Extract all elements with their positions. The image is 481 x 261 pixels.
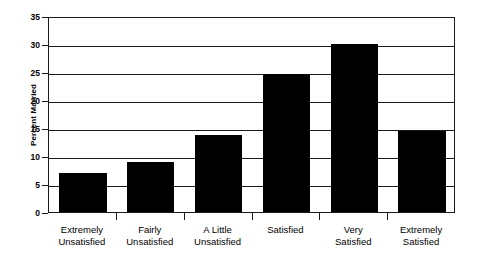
x-axis-label: Extremely Unsatisfied bbox=[48, 224, 116, 248]
bar-chart: Percent Married 05101520253035 Extremely… bbox=[0, 0, 481, 261]
gridline bbox=[49, 130, 454, 131]
bar bbox=[398, 131, 445, 212]
x-axis-label: A Little Unsatisfied bbox=[184, 224, 252, 248]
x-axis-label: Very Satisfied bbox=[319, 224, 387, 248]
gridline bbox=[49, 46, 454, 47]
x-axis-label: Satisfied bbox=[252, 224, 320, 236]
x-tick-mark bbox=[387, 213, 388, 220]
bar bbox=[263, 74, 310, 212]
x-tick-mark bbox=[184, 213, 185, 220]
plot-area bbox=[48, 17, 455, 213]
gridline bbox=[49, 74, 454, 75]
y-tick-label: 5 bbox=[0, 181, 40, 189]
y-tick-label: 20 bbox=[0, 97, 40, 105]
x-tick-mark bbox=[116, 213, 117, 220]
y-tick-label: 30 bbox=[0, 41, 40, 49]
y-tick-label: 10 bbox=[0, 153, 40, 161]
bar bbox=[127, 162, 174, 212]
y-tick-label: 0 bbox=[0, 209, 40, 217]
gridline bbox=[49, 102, 454, 103]
x-tick-mark bbox=[252, 213, 253, 220]
x-axis-label: Fairly Unsatisfied bbox=[116, 224, 184, 248]
y-tick-label: 35 bbox=[0, 13, 40, 21]
x-axis-label: Extremely Satisfied bbox=[387, 224, 455, 248]
bar bbox=[59, 173, 106, 212]
x-tick-mark bbox=[319, 213, 320, 220]
y-tick-mark bbox=[42, 213, 48, 214]
bar bbox=[195, 135, 242, 212]
gridline bbox=[49, 158, 454, 159]
y-tick-label: 15 bbox=[0, 125, 40, 133]
y-tick-label: 25 bbox=[0, 69, 40, 77]
bar bbox=[331, 44, 378, 212]
gridline bbox=[49, 186, 454, 187]
